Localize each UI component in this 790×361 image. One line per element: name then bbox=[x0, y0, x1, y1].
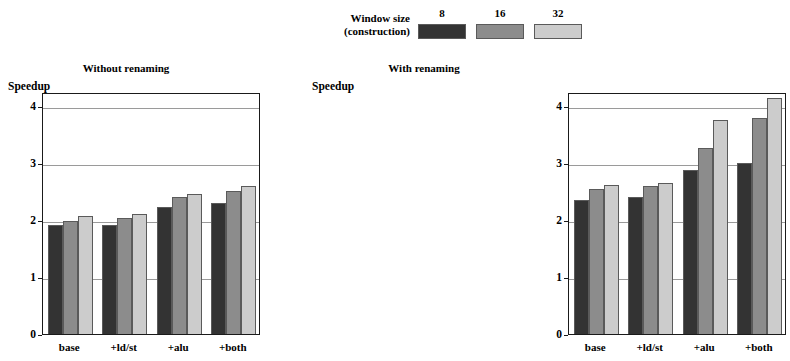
y-tick-label-1: 1 bbox=[546, 272, 562, 283]
y-tick-mark-3 bbox=[38, 164, 42, 165]
plot-area-right bbox=[568, 93, 786, 335]
chart-panel-with-renaming: With renaming Speedup 01234 base+ld/st+a… bbox=[264, 0, 540, 361]
y-tick-label-3: 3 bbox=[20, 158, 36, 169]
bar-base-8 bbox=[48, 225, 63, 334]
bar-ldst-16 bbox=[643, 186, 658, 334]
y-axis-title-right: Speedup bbox=[312, 80, 354, 92]
y-tick-mark-0 bbox=[38, 335, 42, 336]
bar-alu-16 bbox=[698, 148, 713, 334]
bar-alu-8 bbox=[157, 207, 172, 334]
chart-panel-without-renaming: Without renaming Speedup 01234 base+ld/s… bbox=[0, 0, 288, 361]
y-tick-mark-3 bbox=[564, 164, 568, 165]
x-tick-label-both: +both bbox=[193, 341, 273, 353]
legend-entry-label-32: 32 bbox=[534, 7, 582, 19]
legend-swatch-32 bbox=[534, 24, 582, 39]
bar-base-16 bbox=[589, 189, 604, 334]
bar-base-16 bbox=[63, 221, 78, 334]
y-tick-mark-2 bbox=[38, 221, 42, 222]
y-tick-mark-1 bbox=[564, 278, 568, 279]
bar-ldst-32 bbox=[658, 183, 673, 334]
bar-both-8 bbox=[211, 203, 226, 334]
y-tick-mark-2 bbox=[564, 221, 568, 222]
bar-base-32 bbox=[78, 216, 93, 334]
y-tick-label-2: 2 bbox=[546, 215, 562, 226]
chart-title-right: With renaming bbox=[286, 62, 562, 74]
gridline-3 bbox=[43, 165, 259, 166]
bar-both-16 bbox=[226, 191, 241, 334]
bar-alu-32 bbox=[713, 120, 728, 334]
y-axis-title-left: Speedup bbox=[8, 80, 50, 92]
bar-both-32 bbox=[767, 98, 782, 334]
y-tick-label-0: 0 bbox=[546, 329, 562, 340]
y-tick-mark-4 bbox=[564, 107, 568, 108]
y-tick-mark-4 bbox=[38, 107, 42, 108]
bar-ldst-8 bbox=[102, 225, 117, 334]
x-tick-label-both: +both bbox=[719, 341, 790, 353]
y-tick-mark-1 bbox=[38, 278, 42, 279]
bar-alu-32 bbox=[187, 194, 202, 334]
y-tick-mark-0 bbox=[564, 335, 568, 336]
bar-ldst-8 bbox=[628, 197, 643, 334]
y-tick-label-2: 2 bbox=[20, 215, 36, 226]
bar-alu-8 bbox=[683, 170, 698, 334]
bar-both-16 bbox=[752, 118, 767, 334]
bar-both-8 bbox=[737, 163, 752, 334]
y-tick-label-4: 4 bbox=[546, 101, 562, 112]
y-tick-label-0: 0 bbox=[20, 329, 36, 340]
plot-area-left bbox=[42, 93, 260, 335]
gridline-4 bbox=[569, 108, 785, 109]
gridline-4 bbox=[43, 108, 259, 109]
y-tick-label-3: 3 bbox=[546, 158, 562, 169]
bar-base-8 bbox=[574, 200, 589, 334]
chart-title-left: Without renaming bbox=[0, 62, 270, 74]
bar-alu-16 bbox=[172, 197, 187, 334]
y-tick-label-4: 4 bbox=[20, 101, 36, 112]
y-tick-label-1: 1 bbox=[20, 272, 36, 283]
bar-ldst-32 bbox=[132, 214, 147, 334]
bar-base-32 bbox=[604, 185, 619, 334]
bar-both-32 bbox=[241, 186, 256, 334]
bar-ldst-16 bbox=[117, 218, 132, 334]
